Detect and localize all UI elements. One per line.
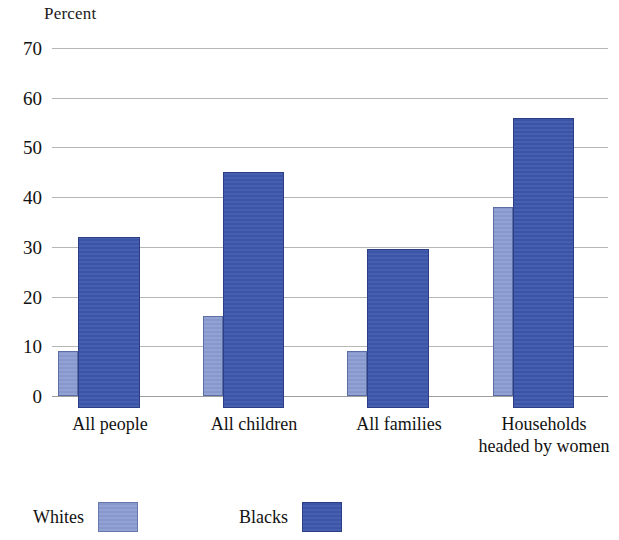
bar-blacks-3: [513, 118, 574, 408]
legend-label-whites: Whites: [33, 507, 84, 528]
y-axis-tick-20: 20: [0, 287, 42, 306]
bar-chart: Percent 706050403020100 All peopleAll ch…: [0, 0, 619, 540]
x-axis-label-line1-3: Households: [434, 414, 619, 436]
bar-whites-1: [203, 316, 223, 396]
y-axis-tick-0: 0: [0, 387, 42, 406]
x-axis-label-3: Householdsheaded by women: [434, 414, 619, 458]
bar-blacks-0: [78, 237, 140, 408]
y-axis-tick-50: 50: [0, 138, 42, 157]
y-axis-title: Percent: [44, 4, 96, 24]
blacks-swatch-icon: [302, 502, 342, 532]
bar-whites-3: [493, 207, 513, 396]
legend-label-blacks: Blacks: [239, 507, 288, 528]
bar-blacks-1: [223, 172, 284, 408]
gridline-60: [52, 98, 608, 99]
plot-area: [52, 48, 608, 396]
y-axis-tick-40: 40: [0, 188, 42, 207]
bar-whites-0: [58, 351, 78, 396]
y-axis-tick-10: 10: [0, 337, 42, 356]
y-axis-tick-70: 70: [0, 39, 42, 58]
y-axis-tick-60: 60: [0, 88, 42, 107]
whites-swatch-icon: [98, 502, 138, 532]
x-axis-label-line2-3: headed by women: [434, 436, 619, 458]
y-axis-tick-30: 30: [0, 237, 42, 256]
gridline-70: [52, 48, 608, 49]
legend: Whites Blacks: [0, 498, 619, 540]
legend-item-blacks[interactable]: Blacks: [239, 502, 342, 532]
bar-whites-2: [347, 351, 367, 396]
legend-item-whites[interactable]: Whites: [33, 502, 138, 532]
bar-blacks-2: [367, 249, 429, 408]
